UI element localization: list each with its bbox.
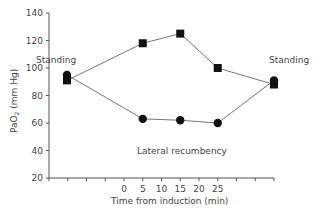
circle-marker [214,119,222,127]
series-group [63,30,278,128]
circle-series-line [67,75,274,123]
x-axis-title: Time from induction (min) [110,196,228,206]
x-tick-label: 10 [156,184,168,194]
y-tick-label: 140 [26,8,43,18]
x-tick-label: 25 [212,184,223,194]
x-tick-label: 0 [121,184,127,194]
x-tick-label: 15 [175,184,186,194]
x-tick-label: 5 [140,184,146,194]
annotation-standing-left: Standing [36,55,76,65]
y-tick-label: 60 [32,118,44,128]
y-tick-label: 40 [32,146,44,156]
x-tick-label: 20 [193,184,205,194]
y-tick-label: 120 [26,36,43,46]
y-axis-title-unit: (mm Hg) [9,69,19,112]
x-ticks: 0510152025 [49,178,274,194]
y-tick-label: 80 [32,91,44,101]
annotation-standing-right: Standing [269,55,309,65]
y-ticks: 20406080100120140 [26,8,49,183]
y-tick-label: 20 [32,173,44,183]
square-marker [139,39,147,47]
y-axis-title: PaO2 (mm Hg) [9,69,20,133]
circle-marker [270,76,278,84]
square-series-line [67,34,274,85]
pao2-line-chart: 20406080100120140 0510152025 Standing St… [0,0,316,219]
square-marker [176,30,184,38]
circle-marker [139,115,147,123]
y-axis-title-main: PaO [9,115,19,133]
annotation-lateral-recumbency: Lateral recumbency [137,146,228,156]
circle-marker [176,116,184,124]
square-marker [214,64,222,72]
circle-marker [63,71,71,79]
